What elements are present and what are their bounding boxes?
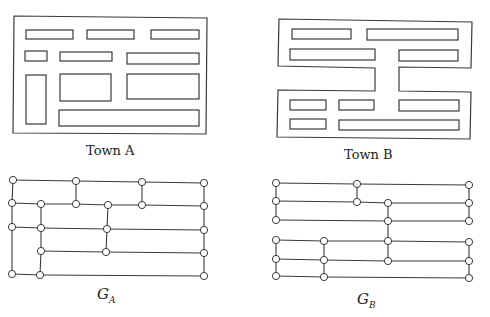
graph-a-node bbox=[104, 201, 111, 208]
town-a-block bbox=[25, 51, 47, 61]
graph-a-node bbox=[37, 200, 44, 207]
town-a-block bbox=[26, 30, 73, 39]
graph-b-node bbox=[465, 257, 472, 264]
graph-b-node bbox=[320, 237, 327, 244]
town-b-block bbox=[339, 120, 459, 130]
town-b-block bbox=[290, 100, 326, 110]
graph-b-node bbox=[272, 216, 279, 223]
town-b-block bbox=[399, 50, 458, 61]
town-a-block bbox=[26, 75, 46, 124]
graph-b-node bbox=[353, 198, 360, 205]
graph-b-node bbox=[465, 217, 472, 224]
graph-b-edge bbox=[276, 183, 357, 184]
town-a-block bbox=[151, 30, 199, 39]
graph-b-node bbox=[272, 255, 279, 262]
graph-a-edge bbox=[12, 274, 40, 275]
graph-b-node bbox=[384, 217, 391, 224]
graph-b-node bbox=[465, 238, 472, 245]
graph-b-label: GB bbox=[357, 290, 376, 310]
graph-b-edge bbox=[357, 202, 388, 203]
graph-a-edge bbox=[40, 275, 204, 276]
graph-a-edge bbox=[41, 228, 107, 229]
graph-a-node bbox=[8, 223, 15, 230]
graph-a-edge bbox=[12, 203, 41, 204]
graph-b-node bbox=[384, 199, 391, 206]
graph-a-node bbox=[103, 225, 110, 232]
town-b-outline bbox=[277, 19, 472, 139]
town-a-block bbox=[59, 110, 199, 126]
graph-b-node bbox=[272, 272, 279, 279]
graph-b-node bbox=[465, 181, 472, 188]
graph-a-node bbox=[37, 224, 44, 231]
graph-a-node bbox=[200, 249, 207, 256]
town-b-block bbox=[339, 100, 374, 110]
graph-a-node bbox=[36, 271, 43, 278]
graph-a-edge bbox=[12, 227, 41, 228]
graph-a bbox=[8, 176, 207, 279]
town-a-block bbox=[60, 74, 111, 101]
graph-b-edge bbox=[324, 277, 469, 278]
town-b-label: Town B bbox=[344, 147, 393, 162]
graph-a-edge bbox=[76, 204, 108, 205]
graph-b bbox=[272, 179, 472, 281]
graph-b-edge bbox=[276, 259, 324, 260]
town-a-block bbox=[127, 53, 199, 64]
graph-a-node bbox=[200, 202, 207, 209]
graph-b-node bbox=[272, 179, 279, 186]
town-b-block bbox=[292, 29, 351, 39]
graph-b-node bbox=[384, 237, 391, 244]
town-a-block bbox=[60, 52, 112, 61]
graph-b-node bbox=[353, 180, 360, 187]
graph-a-label: GA bbox=[97, 285, 115, 305]
graph-b-edge bbox=[276, 201, 357, 202]
town-b-block bbox=[367, 29, 458, 40]
graph-b-node bbox=[384, 257, 391, 264]
town-a-label: Town A bbox=[86, 143, 135, 158]
graph-a-node bbox=[8, 199, 15, 206]
graph-b-node bbox=[320, 256, 327, 263]
town-b-map bbox=[277, 19, 472, 139]
town-a-block bbox=[127, 74, 199, 99]
graph-b-edge bbox=[276, 240, 324, 241]
graph-b-edge bbox=[357, 184, 469, 185]
graph-b-edge bbox=[388, 241, 469, 242]
town-b-block bbox=[290, 119, 326, 129]
graph-a-node bbox=[102, 248, 109, 255]
graph-a-node bbox=[37, 247, 44, 254]
graph-a-node bbox=[200, 272, 207, 279]
graph-a-node bbox=[72, 177, 79, 184]
graph-a-node bbox=[8, 270, 15, 277]
graph-a-edge bbox=[76, 181, 142, 182]
graph-a-node bbox=[138, 178, 145, 185]
graph-a-edge bbox=[142, 205, 204, 206]
graph-a-edge bbox=[13, 180, 76, 181]
graph-a-node bbox=[138, 201, 145, 208]
graph-b-node bbox=[272, 236, 279, 243]
graph-a-edge bbox=[107, 229, 204, 230]
graph-a-node bbox=[72, 200, 79, 207]
graph-b-node bbox=[465, 274, 472, 281]
graph-a-node bbox=[9, 176, 16, 183]
graph-a-edge bbox=[142, 182, 204, 183]
graph-a-node bbox=[200, 179, 207, 186]
town-b-block bbox=[290, 49, 375, 60]
graph-a-edge bbox=[41, 251, 106, 252]
town-a-block bbox=[87, 30, 134, 39]
graph-b-node bbox=[320, 273, 327, 280]
town-a-map bbox=[13, 16, 207, 134]
graph-a-edge bbox=[106, 252, 204, 253]
graph-b-edge bbox=[324, 260, 388, 261]
town-b-block bbox=[399, 100, 459, 111]
graph-b-edge bbox=[276, 220, 388, 221]
graph-b-node bbox=[465, 199, 472, 206]
graph-a-node bbox=[200, 226, 207, 233]
diagram-canvas bbox=[0, 0, 490, 317]
graph-b-edge bbox=[276, 276, 324, 277]
graph-b-node bbox=[272, 197, 279, 204]
